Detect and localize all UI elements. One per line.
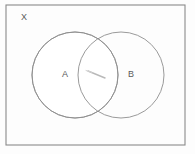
set-b-label: B xyxy=(128,70,134,79)
set-a-label: A xyxy=(62,70,68,79)
venn-diagram-figure: X A B xyxy=(0,0,195,154)
diagram-canvas xyxy=(0,0,195,154)
universal-set-label: X xyxy=(21,13,27,22)
